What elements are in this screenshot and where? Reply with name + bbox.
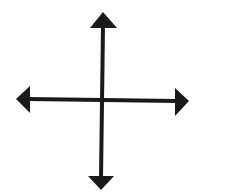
arrow-left-icon — [16, 86, 30, 113]
arrow-up-icon — [90, 12, 117, 28]
figure-canvas — [0, 0, 229, 195]
four-way-arrow-icon — [0, 0, 229, 195]
horizontal-shaft — [28, 99, 177, 101]
arrow-right-icon — [175, 88, 189, 116]
arrow-down-icon — [88, 176, 114, 190]
